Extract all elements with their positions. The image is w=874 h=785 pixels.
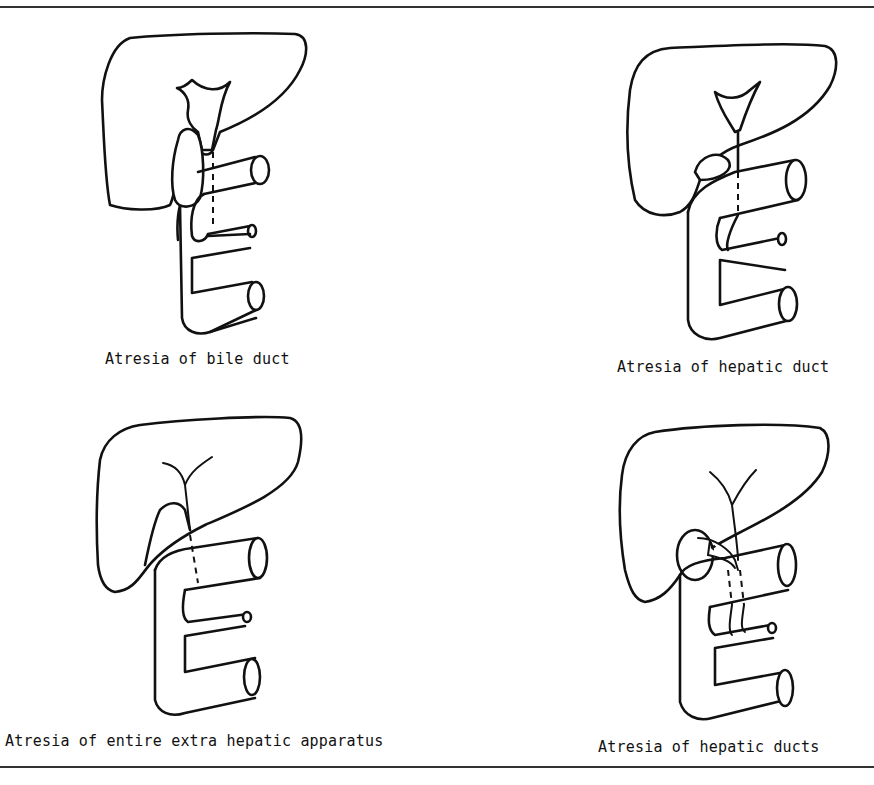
caption-hepatic-ducts: Atresia of hepatic ducts	[598, 738, 820, 756]
diagram-bile-duct	[80, 0, 340, 380]
caption-entire-extrahepatic: Atresia of entire extra hepatic apparatu…	[5, 732, 383, 750]
gallbladder	[172, 129, 203, 207]
diagram-entire-extrahepatic	[0, 400, 440, 785]
caption-bile-duct: Atresia of bile duct	[105, 350, 290, 368]
caption-hepatic-duct: Atresia of hepatic duct	[617, 358, 829, 376]
diagram-hepatic-duct	[600, 20, 874, 390]
diagram-hepatic-ducts	[580, 410, 874, 785]
